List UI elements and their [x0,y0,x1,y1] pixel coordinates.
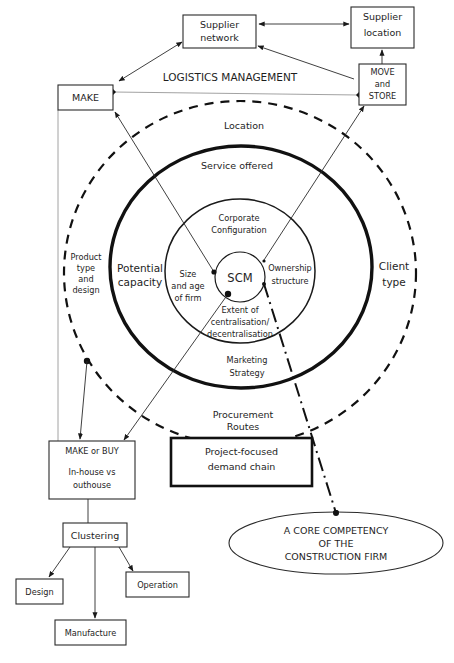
svg-text:Marketing: Marketing [227,355,268,365]
svg-text:STORE: STORE [369,91,397,101]
svg-text:Operation: Operation [137,580,178,590]
svg-text:Extent of: Extent of [221,305,259,315]
label-corporate-configuration: Corporate Configuration [211,213,267,235]
svg-text:Configuration: Configuration [211,225,267,235]
svg-text:structure: structure [271,276,308,286]
svg-text:type: type [77,263,95,273]
scm-diagram: Supplier network Supplier location MAKE … [0,0,454,663]
manufacture-box: Manufacture [55,620,126,645]
svg-text:Potential: Potential [117,262,163,274]
make-or-buy-box: MAKE or BUY In-house vs outhouse [49,441,135,499]
svg-text:design: design [72,285,99,295]
svg-text:Clustering: Clustering [71,530,119,541]
svg-text:outhouse: outhouse [73,480,111,490]
svg-text:OF THE: OF THE [319,538,354,549]
svg-text:Strategy: Strategy [229,368,264,378]
svg-text:Routes: Routes [227,421,260,432]
scm-dot-right-bottom [262,282,266,286]
svg-text:location: location [364,27,402,38]
svg-text:network: network [200,32,239,43]
scm-dot-left [211,269,216,274]
clustering-box: Clustering [63,523,127,547]
svg-text:and: and [78,274,93,284]
core-competency-ellipse: A CORE COMPETENCY OF THE CONSTRUCTION FI… [229,512,443,574]
svg-text:and age: and age [171,281,204,291]
svg-text:MOVE: MOVE [370,67,394,77]
label-scm: SCM [227,271,252,285]
svg-text:Manufacture: Manufacture [65,628,116,638]
svg-text:demand chain: demand chain [208,461,276,472]
supplier-network-box: Supplier network [183,15,256,48]
svg-text:MAKE or BUY: MAKE or BUY [65,446,119,456]
svg-text:Product: Product [70,252,102,262]
svg-text:capacity: capacity [118,276,162,288]
label-procurement-routes: Procurement Routes [213,409,274,432]
svg-text:Size: Size [180,269,197,279]
label-potential-capacity: Potential capacity [117,262,163,288]
svg-text:In-house vs: In-house vs [69,467,116,477]
make-box: MAKE [58,85,113,110]
svg-text:MAKE: MAKE [72,92,99,103]
label-client-type: Client type [379,260,409,288]
design-box: Design [16,579,63,604]
connector-scm-make [115,112,214,272]
competency-dot-top [333,510,339,516]
svg-text:decentralisation: decentralisation [207,329,273,339]
connector-make-move-dotted [113,92,359,95]
svg-text:type: type [382,276,405,288]
svg-text:Supplier: Supplier [200,19,239,30]
svg-text:A CORE COMPETENCY: A CORE COMPETENCY [284,525,389,536]
connector-clustering-operation [119,547,133,571]
connector-scm-move [264,106,364,260]
svg-text:Procurement: Procurement [213,409,274,420]
scm-dot-right-top [262,259,265,262]
connector-product-type-make-or-buy [80,361,87,439]
svg-text:Ownership: Ownership [268,263,312,273]
move-and-store-box: MOVE and STORE [359,64,406,105]
label-size-age: Size and age of firm [171,269,204,303]
connector-clustering-design [49,547,70,577]
operation-box: Operation [126,572,189,597]
label-location: Location [224,120,264,131]
logistics-management-label: LOGISTICS MANAGEMENT [163,71,298,83]
svg-text:Client: Client [379,260,409,272]
svg-text:Project-focused: Project-focused [205,446,278,457]
svg-text:Corporate: Corporate [219,213,260,223]
supplier-location-box: Supplier location [351,7,414,48]
svg-text:CONSTRUCTION FIRM: CONSTRUCTION FIRM [285,551,388,562]
svg-text:centralisation/: centralisation/ [211,317,270,327]
label-ownership-structure: Ownership structure [268,263,312,286]
svg-text:Design: Design [25,587,53,597]
svg-text:of firm: of firm [175,293,202,303]
label-product-type: Product type and design [70,252,102,295]
label-marketing-strategy: Marketing Strategy [227,355,268,378]
project-focused-box: Project-focused demand chain [171,438,312,486]
label-service-offered: Service offered [201,160,273,171]
svg-text:and: and [375,79,390,89]
svg-text:Supplier: Supplier [363,11,402,22]
scm-dot-bottom [225,291,231,297]
